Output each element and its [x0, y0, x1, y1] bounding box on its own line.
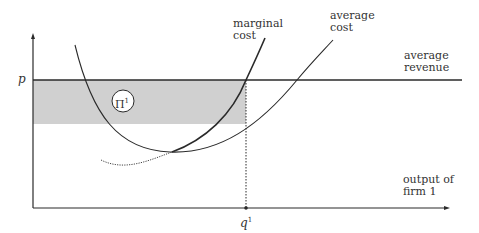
- profit-superscript: 1: [125, 97, 129, 105]
- average-revenue-label: average revenue: [404, 50, 449, 74]
- marginal-cost-label: marginal cost: [233, 18, 283, 42]
- q1-point: [244, 206, 248, 210]
- profit-label: Π1: [115, 95, 129, 111]
- x-axis-label-line2: firm 1: [403, 186, 454, 198]
- marginal-cost-dotted: [101, 152, 172, 165]
- q-symbol: q: [240, 216, 248, 230]
- profit-symbol: Π: [115, 98, 125, 111]
- q-superscript: 1: [248, 216, 252, 224]
- q1-label: q1: [240, 214, 252, 229]
- price-label: p: [18, 73, 26, 85]
- y-axis-arrow-icon: [31, 33, 35, 39]
- marginal-cost-label-line2: cost: [233, 30, 283, 42]
- x-axis-arrow-icon: [444, 206, 450, 210]
- x-axis-label: output of firm 1: [403, 174, 454, 198]
- profit-area: [33, 80, 246, 124]
- average-revenue-label-line2: revenue: [404, 62, 449, 74]
- average-cost-label: average cost: [330, 10, 375, 34]
- average-cost-label-line2: cost: [330, 22, 375, 34]
